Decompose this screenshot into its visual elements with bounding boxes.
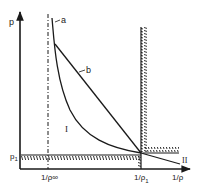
rho1-lower-hatch xyxy=(137,155,141,168)
x-tick-rho-infinity: 1/ρ∞ xyxy=(41,173,58,182)
rho1-hatch xyxy=(141,27,147,153)
y-axis-label: p xyxy=(9,17,14,27)
curve-a-label: a xyxy=(61,15,66,25)
region-i-label: I xyxy=(65,124,68,134)
x-tick-rho1: 1/ρ1 xyxy=(134,173,149,184)
curve-b-leader xyxy=(79,70,85,72)
curve-a-leader xyxy=(55,20,60,22)
upper-right-hatch xyxy=(145,147,179,152)
region-ii-label: II xyxy=(182,156,188,165)
p1-label: p1 xyxy=(10,152,18,162)
curve-b xyxy=(55,44,141,153)
curve-b-label: b xyxy=(86,65,91,75)
x-axis-label: 1/ρ xyxy=(172,173,184,182)
p-rho-diagram: p a b I II p1 1/ρ∞ 1/ρ1 1/ρ xyxy=(0,0,199,194)
p1-hatch xyxy=(21,155,141,160)
curve-ii xyxy=(141,153,180,164)
